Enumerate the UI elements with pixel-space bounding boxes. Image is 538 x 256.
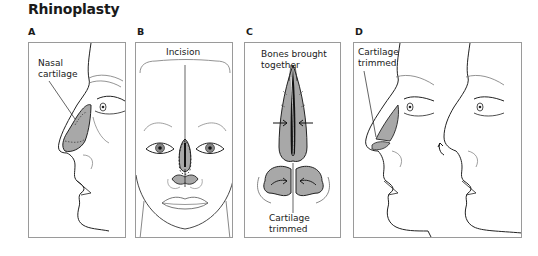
panel-label-a: A [28,26,35,37]
panel-b: Incision [135,42,233,238]
panel-label-b: B [137,26,144,37]
panel-label-d: D [355,26,363,37]
panel-label-c: C [246,26,253,37]
panel-a: Nasal cartilage [28,42,126,238]
frontal-face-incision-illustration [136,43,233,238]
callout-nasal-cartilage: Nasal cartilage [38,58,77,80]
callout-cartilage-trimmed-d: Cartilage trimmed [358,47,399,69]
figure-title: Rhinoplasty [28,1,119,17]
callout-cartilage-trimmed: Cartilage trimmed [269,213,310,235]
callout-incision: Incision [166,47,200,58]
nasal-bones-cartilage-illustration [245,43,341,238]
callout-bones-brought-together: Bones brought together [261,49,327,71]
before-after-profiles-illustration [354,43,522,238]
panel-d: Cartilage trimmed [353,42,522,238]
panel-c: Bones brought together Cartilage trimmed [244,42,341,238]
